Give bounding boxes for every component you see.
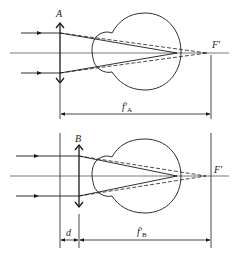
lens-label-b: B (75, 133, 81, 144)
dimension-label-fa: f′A (122, 101, 132, 114)
ray-arrow-icon (37, 71, 42, 75)
refracted-ray-dashed-bottom-b (79, 176, 206, 196)
refracted-ray-dashed-top-b (79, 156, 206, 176)
optics-diagram: A F′ f′A B F′ (0, 0, 237, 265)
lens-label-a: A (55, 8, 63, 19)
refracted-ray-dashed-top-a (60, 33, 207, 53)
ray-arrow-icon (34, 194, 39, 198)
dimension-label-d: d (66, 227, 72, 238)
refracted-ray-solid-top-b (79, 156, 177, 176)
ray-arrow-icon (37, 31, 42, 35)
panel-a: A F′ f′A (10, 8, 229, 119)
dimension-label-fb: f′B (137, 226, 147, 239)
refracted-ray-solid-bottom-a (60, 53, 177, 73)
focus-label-a: F′ (211, 39, 221, 50)
ray-arrow-icon (34, 154, 39, 158)
focus-label-b: F′ (213, 164, 223, 175)
panel-b: B F′ d f′B (10, 133, 229, 248)
refracted-ray-dashed-bottom-a (60, 53, 207, 73)
refracted-ray-solid-top-a (60, 33, 177, 53)
